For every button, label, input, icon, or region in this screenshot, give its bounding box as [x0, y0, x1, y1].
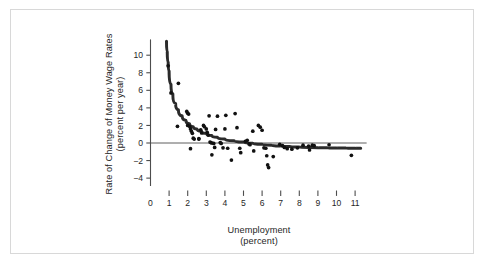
data-point [251, 129, 255, 133]
data-point [223, 127, 227, 131]
y-axis-units: (percent per year) [115, 77, 125, 152]
x-tick-label: 11 [351, 198, 360, 208]
data-point [267, 166, 271, 170]
scatter-points-group [166, 64, 353, 170]
y-tick-label: −2 [133, 156, 143, 166]
x-tick-label: 6 [260, 198, 265, 208]
data-point [258, 125, 262, 129]
data-point [197, 137, 201, 141]
x-axis-units: (percent) [240, 236, 278, 246]
data-point [290, 147, 294, 151]
y-tick-label: 4 [138, 103, 143, 113]
y-tick-label: −4 [133, 173, 143, 183]
x-tick-label: 8 [297, 198, 302, 208]
data-point [210, 153, 214, 157]
data-point [192, 137, 196, 141]
data-point [216, 114, 220, 118]
x-tick-label: 5 [241, 198, 246, 208]
data-point [200, 131, 204, 135]
data-point [252, 149, 256, 153]
data-point [166, 64, 170, 68]
data-point [191, 131, 195, 135]
data-point [187, 112, 191, 116]
data-point [308, 148, 312, 152]
y-tick-label: 8 [138, 68, 143, 78]
data-point [206, 133, 210, 137]
data-point [235, 126, 239, 130]
data-point [214, 128, 218, 132]
data-point [296, 146, 300, 150]
data-point [213, 146, 217, 150]
data-point [307, 144, 311, 148]
x-tick-label: 4 [223, 198, 228, 208]
data-point [350, 153, 354, 157]
fitted-curve [167, 41, 361, 148]
y-axis-title: Rate of Change of Money Wage Rates [104, 33, 114, 194]
data-point [327, 143, 331, 147]
data-point [189, 147, 193, 151]
data-point [312, 144, 316, 148]
data-point [230, 158, 234, 162]
data-point [245, 139, 249, 143]
data-point [233, 112, 237, 116]
y-tick-label: 6 [138, 85, 143, 95]
x-tick-label: 7 [278, 198, 283, 208]
x-tick-label: 10 [332, 198, 342, 208]
data-point [301, 143, 305, 147]
data-point [176, 124, 180, 128]
data-point [219, 142, 223, 146]
data-point [204, 127, 208, 131]
scatter-chart: −4−2024681001234567891011Unemployment(pe… [0, 0, 486, 269]
x-tick-label: 3 [204, 198, 209, 208]
data-point [285, 147, 289, 151]
x-axis-title: Unemployment [228, 225, 291, 235]
y-axis-title-group: Rate of Change of Money Wage Rates(perce… [104, 33, 125, 194]
data-point [271, 155, 275, 159]
data-point [265, 154, 269, 158]
data-point [248, 143, 252, 147]
x-tick-label: 1 [167, 198, 172, 208]
data-point [260, 128, 264, 132]
phillips-curve-figure: −4−2024681001234567891011Unemployment(pe… [0, 0, 486, 269]
x-tick-label: 9 [316, 198, 321, 208]
data-point [207, 114, 211, 118]
x-tick-label: 0 [148, 198, 153, 208]
data-point [177, 81, 181, 85]
y-tick-label: 0 [138, 138, 143, 148]
data-point [212, 142, 216, 146]
y-tick-label: 10 [133, 50, 143, 60]
data-point [226, 146, 230, 150]
data-point [221, 146, 225, 150]
data-point [169, 91, 173, 95]
data-point [224, 113, 228, 117]
x-tick-label: 2 [185, 198, 190, 208]
data-point [239, 151, 243, 155]
data-point [238, 146, 242, 150]
y-tick-label: 2 [138, 121, 143, 131]
data-point [264, 146, 268, 150]
